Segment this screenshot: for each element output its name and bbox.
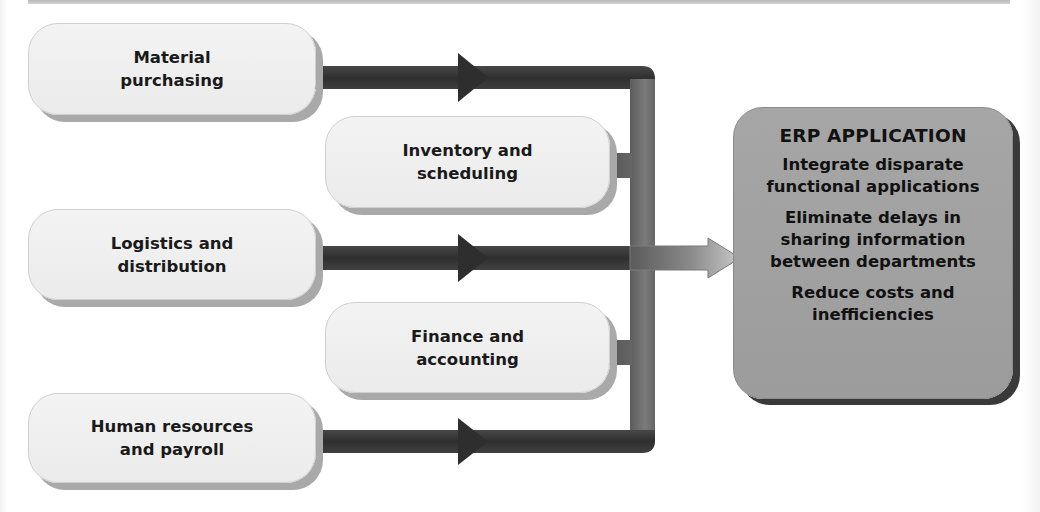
- arrow-logistics-to-erp: [304, 234, 740, 282]
- box-finance-accounting: Finance and accounting: [325, 302, 610, 393]
- erp-benefit-reduce-costs: Reduce costs and inefficiencies: [734, 282, 1012, 326]
- erp-application-box: ERP APPLICATION Integrate disparate func…: [733, 107, 1013, 399]
- erp-title: ERP APPLICATION: [734, 124, 1012, 148]
- arrowhead-icon: [458, 234, 488, 282]
- arrowhead-icon: [458, 418, 488, 465]
- erp-benefit-eliminate-delays: Eliminate delays in sharing information …: [734, 207, 1012, 273]
- arrow-material-purchasing: [304, 53, 655, 102]
- box-material-purchasing: Material purchasing: [28, 23, 316, 115]
- box-inventory-scheduling: Inventory and scheduling: [325, 116, 610, 208]
- erp-benefit-integrate: Integrate disparate functional applicati…: [734, 154, 1012, 198]
- box-label: Finance and accounting: [411, 325, 524, 371]
- box-label: Human resources and payroll: [91, 415, 254, 461]
- box-human-resources-payroll: Human resources and payroll: [28, 393, 316, 483]
- arrowhead-icon: [458, 53, 488, 102]
- box-label: Material purchasing: [120, 46, 223, 92]
- box-label: Inventory and scheduling: [402, 139, 532, 185]
- box-label: Logistics and distribution: [111, 232, 234, 278]
- arrow-human-resources: [304, 418, 655, 465]
- box-logistics-distribution: Logistics and distribution: [28, 209, 316, 300]
